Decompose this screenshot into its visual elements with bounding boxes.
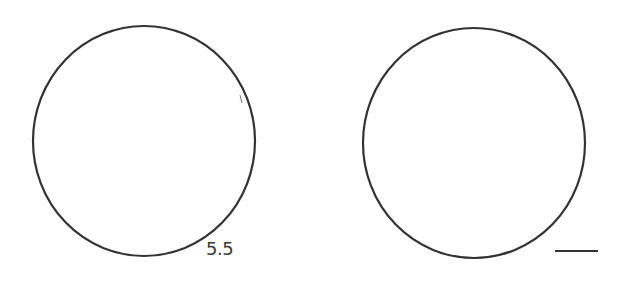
diagram-canvas: 5.5 bbox=[0, 0, 623, 285]
small-tick-mark bbox=[240, 95, 242, 103]
left-circle-label: 5.5 bbox=[206, 240, 233, 258]
right-circle bbox=[363, 28, 585, 258]
diagram-svg bbox=[0, 0, 623, 285]
left-circle bbox=[33, 26, 255, 256]
